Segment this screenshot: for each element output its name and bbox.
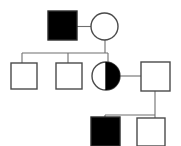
pedigree-chart: Three-generation pedigree chart	[0, 0, 181, 146]
individual-i-2-unaffected-female-circle[interactable]	[91, 13, 118, 40]
individual-ii-3-carrier-female-circle[interactable]	[92, 62, 120, 90]
generation-i-group	[48, 11, 118, 40]
individual-ii-2-unaffected-male-square[interactable]	[56, 63, 82, 89]
individual-ii-4-unaffected-male-square[interactable]	[141, 62, 170, 91]
individual-iii-1-affected-male-square[interactable]	[91, 117, 120, 146]
individual-i-1-affected-male-square[interactable]	[48, 11, 77, 40]
generation-iii-group	[91, 117, 165, 146]
pedigree-canvas-svg	[0, 0, 181, 146]
connector-layer	[22, 27, 155, 119]
generation-ii-group	[11, 62, 170, 91]
individual-ii-1-unaffected-male-square[interactable]	[11, 63, 37, 89]
individual-iii-2-unaffected-male-square[interactable]	[137, 118, 165, 146]
